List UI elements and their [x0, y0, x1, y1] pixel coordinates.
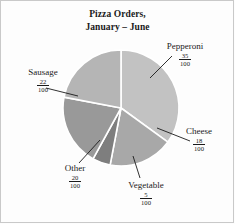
- slice-name-cheese: Cheese: [171, 126, 227, 137]
- slice-label-vegetable: Vegetable 5 100: [112, 180, 180, 208]
- slice-label-cheese: Cheese 18 100: [171, 126, 227, 154]
- slice-value-numerator: 22: [37, 78, 49, 86]
- slice-value-numerator: 18: [193, 137, 205, 145]
- slice-value-numerator: 20: [69, 174, 81, 182]
- slice-name-other: Other: [52, 163, 98, 174]
- slice-value-cheese: 18 100: [193, 137, 205, 152]
- slice-label-pepperoni: Pepperoni 35 100: [152, 41, 218, 69]
- slice-name-sausage: Sausage: [12, 67, 74, 78]
- slice-name-vegetable: Vegetable: [112, 180, 180, 191]
- slice-value-numerator: 35: [179, 52, 191, 60]
- chart-title-line-1: Pizza Orders,: [0, 8, 235, 21]
- slice-value-denominator: 100: [193, 145, 205, 152]
- slice-value-denominator: 100: [37, 86, 49, 93]
- chart-title-line-2: January – June: [0, 21, 235, 34]
- slice-value-denominator: 100: [179, 60, 191, 67]
- slice-value-denominator: 100: [69, 182, 81, 189]
- pie-chart-figure: Pizza Orders, January – June Pepperoni 3…: [0, 0, 235, 224]
- slice-value-numerator: 5: [140, 191, 152, 199]
- slice-label-sausage: Sausage 22 100: [12, 67, 74, 95]
- slice-value-pepperoni: 35 100: [179, 52, 191, 67]
- slice-name-pepperoni: Pepperoni: [152, 41, 218, 52]
- slice-value-other: 20 100: [69, 174, 81, 189]
- slice-value-sausage: 22 100: [37, 78, 49, 93]
- slice-label-other: Other 20 100: [52, 163, 98, 191]
- slice-value-vegetable: 5 100: [140, 191, 152, 206]
- slice-value-denominator: 100: [140, 199, 152, 206]
- chart-title: Pizza Orders, January – June: [0, 8, 235, 33]
